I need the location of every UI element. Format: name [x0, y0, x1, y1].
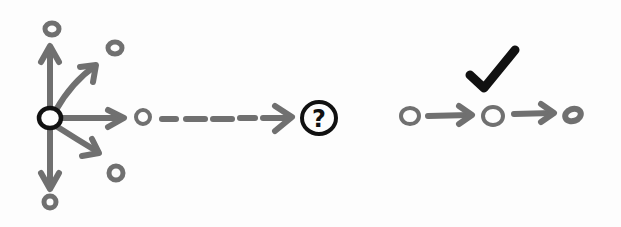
- node-up: [45, 23, 59, 35]
- start-node: [39, 108, 61, 128]
- unknown-target: ?: [302, 102, 336, 134]
- linear-chain: [401, 50, 583, 125]
- chain-arrow-2: [514, 104, 554, 122]
- node-up-right: [108, 42, 122, 54]
- chain-node-1: [401, 108, 419, 124]
- checkmark-icon: [470, 50, 515, 88]
- branch-arrow-up: [41, 46, 59, 112]
- dashed-arrow: [162, 106, 292, 131]
- exploration-graph: ?: [39, 23, 336, 208]
- branch-arrow-down: [41, 124, 59, 189]
- branch-arrow-right: [58, 110, 124, 127]
- node-down-right: [109, 166, 123, 180]
- branch-arrow-up-right: [56, 65, 96, 110]
- diagram-canvas: ?: [0, 0, 621, 227]
- chain-node-3: [563, 107, 582, 124]
- chain-arrow-1: [428, 106, 472, 124]
- node-down: [44, 196, 56, 208]
- question-mark: ?: [312, 105, 326, 133]
- node-right: [136, 110, 150, 124]
- branch-arrow-down-right: [56, 126, 99, 156]
- chain-node-2: [483, 107, 503, 125]
